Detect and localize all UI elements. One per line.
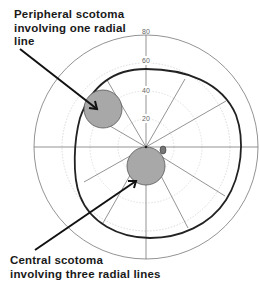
ring-label-60: 60: [142, 57, 150, 64]
peripheral-scotoma-label: Peripheral scotoma involving one radial …: [14, 8, 126, 49]
label-line: line: [14, 35, 126, 49]
arrow-central: [35, 181, 136, 250]
label-line: involving one radial: [14, 22, 126, 36]
arrow-peripheral: [20, 49, 97, 109]
ring-label-80: 80: [142, 28, 150, 35]
blind-spot: [160, 146, 166, 154]
central-scotoma: [127, 147, 165, 185]
label-line: involving three radial lines: [10, 268, 161, 282]
label-line: Central scotoma: [10, 254, 161, 268]
arrows: [20, 49, 136, 250]
fixation-point: [145, 146, 148, 149]
label-line: Peripheral scotoma: [14, 8, 126, 22]
central-scotoma-label: Central scotoma involving three radial l…: [10, 254, 161, 281]
ring-label-20: 20: [142, 115, 150, 122]
ring-label-40: 40: [142, 87, 150, 94]
